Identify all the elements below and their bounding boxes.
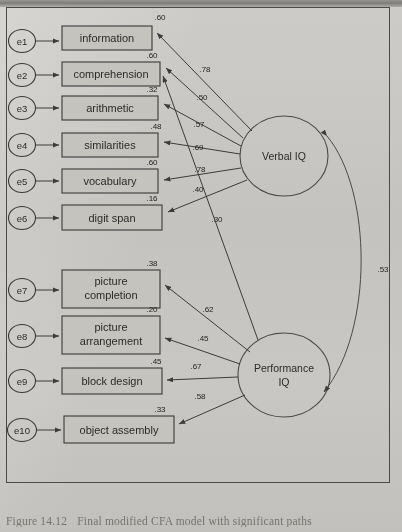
loading-label-block-design: .67 xyxy=(190,362,202,371)
latent-factor-verbal-iq: Verbal IQ xyxy=(240,116,328,196)
indicator-label-picture-completion-line1: picture xyxy=(94,275,127,287)
loading-label-similarities: .69 xyxy=(192,143,204,152)
indicator-label-vocabulary: vocabulary xyxy=(83,175,137,187)
indicator-label-picture-completion-line2: completion xyxy=(84,289,137,301)
latent-label-performance-line2: IQ xyxy=(278,376,289,388)
loading-label-picture-completion: .62 xyxy=(202,305,214,314)
error-label-e9: e9 xyxy=(17,376,28,387)
indicator-group-vocabulary: e5 vocabulary .60 xyxy=(9,158,159,193)
cross-loading-label: .30 xyxy=(211,215,223,224)
loading-label-object-assembly: .58 xyxy=(194,392,206,401)
loading-path-performance-block-design xyxy=(167,377,238,380)
variance-label-picture-completion: .38 xyxy=(146,259,158,268)
loading-paths-verbal: .78 .50 .57 .69 .78 .40 xyxy=(157,33,252,212)
indicator-group-picture-completion: e7 picture completion .38 xyxy=(9,259,161,308)
indicator-group-arithmetic: e3 arithmetic .32 xyxy=(9,85,159,120)
variance-label-arithmetic: .32 xyxy=(146,85,158,94)
indicator-group-object-assembly: e10 object assembly .33 xyxy=(8,405,175,443)
loading-label-information: .78 xyxy=(199,65,211,74)
error-label-e10: e10 xyxy=(14,425,30,436)
indicator-label-picture-arrangement-line2: arrangement xyxy=(80,335,142,347)
variance-label-comprehension: .60 xyxy=(146,51,158,60)
error-label-e2: e2 xyxy=(17,70,28,81)
loading-paths-performance: .62 .45 .67 .58 xyxy=(165,285,250,424)
loading-label-picture-arrangement: .45 xyxy=(197,334,209,343)
indicator-label-arithmetic: arithmetic xyxy=(86,102,134,114)
loading-label-comprehension: .50 xyxy=(196,93,208,102)
indicator-group-picture-arrangement: e8 picture arrangement .20 xyxy=(9,305,161,354)
error-label-e1: e1 xyxy=(17,36,28,47)
variance-label-information: .60 xyxy=(154,13,166,22)
error-label-e4: e4 xyxy=(17,140,28,151)
error-label-e5: e5 xyxy=(17,176,28,187)
indicator-label-digit-span: digit span xyxy=(88,212,135,224)
indicator-label-picture-arrangement-line1: picture xyxy=(94,321,127,333)
variance-label-similarities: .48 xyxy=(150,122,162,131)
loading-path-verbal-digit-span xyxy=(168,180,247,212)
variance-label-vocabulary: .60 xyxy=(146,158,158,167)
latent-label-verbal: Verbal IQ xyxy=(262,150,306,162)
loading-path-verbal-information xyxy=(157,33,252,131)
variance-label-picture-arrangement: .20 xyxy=(146,305,158,314)
latent-label-performance-line1: Performance xyxy=(254,362,314,374)
figure-caption: Figure 14.12Final modified CFA model wit… xyxy=(6,515,398,527)
figure-caption-number: Figure 14.12 xyxy=(6,515,67,527)
error-label-e8: e8 xyxy=(17,331,28,342)
error-label-e6: e6 xyxy=(17,213,28,224)
indicator-label-object-assembly: object assembly xyxy=(80,424,159,436)
indicator-label-similarities: similarities xyxy=(84,139,136,151)
latent-factor-performance-iq: Performance IQ xyxy=(238,333,330,417)
indicator-label-block-design: block design xyxy=(81,375,142,387)
error-label-e3: e3 xyxy=(17,103,28,114)
variance-label-block-design: .45 xyxy=(150,357,162,366)
indicator-group-block-design: e9 block design .45 xyxy=(9,357,163,394)
correlation-label: .53 xyxy=(377,265,389,274)
indicator-label-comprehension: comprehension xyxy=(73,68,148,80)
factor-correlation-path: .53 xyxy=(324,136,389,392)
indicator-group-similarities: e4 similarities .48 xyxy=(9,122,163,157)
loading-path-performance-object-assembly xyxy=(179,395,245,424)
indicator-group-digit-span: e6 digit span .16 xyxy=(9,194,163,230)
indicator-label-information: information xyxy=(80,32,134,44)
correlation-curve xyxy=(324,136,361,392)
indicator-group-comprehension: e2 comprehension .60 xyxy=(9,51,161,87)
figure-container: e1 information .60 e2 comprehension .60 … xyxy=(0,0,402,532)
latent-oval-performance xyxy=(238,333,330,417)
variance-label-object-assembly: .33 xyxy=(154,405,166,414)
variance-label-digit-span: .16 xyxy=(146,194,158,203)
error-label-e7: e7 xyxy=(17,285,28,296)
indicator-group-information: e1 information .60 xyxy=(9,13,167,53)
loading-label-arithmetic: .57 xyxy=(193,120,205,129)
figure-caption-text: Final modified CFA model with significan… xyxy=(77,515,312,527)
cfa-path-diagram: e1 information .60 e2 comprehension .60 … xyxy=(0,0,402,532)
